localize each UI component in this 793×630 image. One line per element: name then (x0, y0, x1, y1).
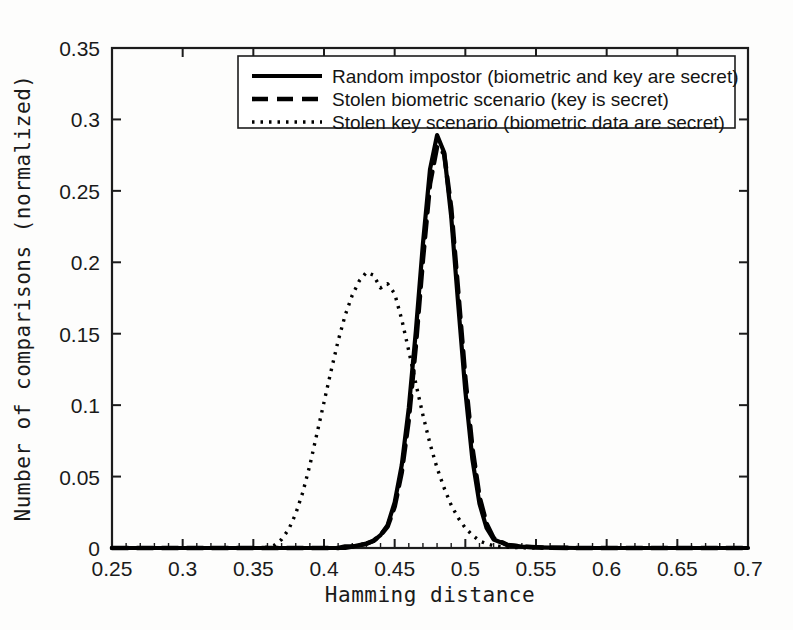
curve-dashed (112, 147, 748, 548)
x-tick-label: 0.55 (516, 557, 557, 580)
y-tick-label: 0.35 (59, 37, 100, 60)
y-tick-label: 0.3 (71, 108, 100, 131)
x-tick-label: 0.65 (657, 557, 698, 580)
y-axis-title: Number of comparisons (normalized) (11, 75, 35, 522)
x-tick-label: 0.45 (374, 557, 415, 580)
x-tick-label: 0.35 (233, 557, 274, 580)
y-tick-label: 0.1 (71, 394, 100, 417)
y-tick-label: 0.05 (59, 466, 100, 489)
x-tick-label: 0.25 (92, 557, 133, 580)
x-axis-tick-labels: 0.250.30.350.40.450.50.550.60.650.7 (92, 557, 763, 580)
figure-canvas: 0.250.30.350.40.450.50.550.60.650.7 00.0… (0, 0, 793, 630)
y-axis-tick-labels: 00.050.10.150.20.250.30.35 (59, 37, 100, 560)
data-curves (112, 135, 748, 548)
y-tick-label: 0 (88, 537, 100, 560)
legend-label: Stolen key scenario (biometric data are … (332, 112, 725, 133)
legend-label: Random impostor (biometric and key are s… (332, 66, 739, 87)
hamming-distance-distribution-chart: 0.250.30.350.40.450.50.550.60.650.7 00.0… (0, 0, 793, 630)
y-tick-label: 0.2 (71, 251, 100, 274)
x-tick-label: 0.6 (592, 557, 621, 580)
x-tick-label: 0.7 (733, 557, 762, 580)
y-tick-label: 0.25 (59, 180, 100, 203)
y-tick-label: 0.15 (59, 323, 100, 346)
x-tick-label: 0.5 (451, 557, 480, 580)
x-axis-title: Hamming distance (325, 583, 535, 607)
legend-label: Stolen biometric scenario (key is secret… (332, 89, 669, 110)
x-tick-label: 0.3 (168, 557, 197, 580)
chart-legend: Random impostor (biometric and key are s… (238, 56, 739, 133)
x-tick-label: 0.4 (309, 557, 339, 580)
curve-dotted (112, 272, 748, 548)
